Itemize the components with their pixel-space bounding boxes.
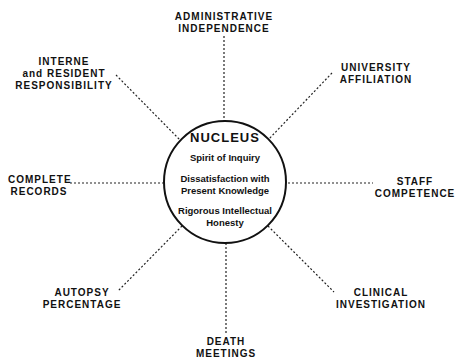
label-line: INTERNE [14, 56, 114, 68]
nucleus-item: Rigorous Intellectual [162, 205, 288, 216]
label-line: INDEPENDENCE [164, 23, 284, 35]
label-complete-records: COMPLETE RECORDS [8, 174, 70, 198]
label-university-affiliation: UNIVERSITY AFFILIATION [326, 62, 426, 86]
label-line: UNIVERSITY [326, 62, 426, 74]
spoke-bottom-left [118, 226, 182, 291]
label-line: INVESTIGATION [326, 299, 436, 311]
label-line: and RESIDENT [14, 68, 114, 80]
label-line: AUTOPSY [42, 287, 122, 299]
label-interne-resident-responsibility: INTERNE and RESIDENT RESPONSIBILITY [14, 56, 114, 92]
label-line: ADMINISTRATIVE [164, 11, 284, 23]
label-line: RECORDS [8, 186, 70, 198]
label-line: STAFF [370, 176, 460, 188]
spoke-bottom-right [268, 226, 334, 292]
label-administrative-independence: ADMINISTRATIVE INDEPENDENCE [164, 11, 284, 35]
label-line: MEETINGS [186, 348, 266, 360]
label-clinical-investigation: CLINICAL INVESTIGATION [326, 287, 436, 311]
label-line: RESPONSIBILITY [14, 80, 114, 92]
label-line: AFFILIATION [326, 74, 426, 86]
label-line: PERCENTAGE [42, 299, 122, 311]
label-line: CLINICAL [326, 287, 436, 299]
nucleus-item: Present Knowledge [162, 185, 288, 196]
label-staff-competence: STAFF COMPETENCE [370, 176, 460, 200]
nucleus-item: Honesty [165, 217, 285, 228]
label-autopsy-percentage: AUTOPSY PERCENTAGE [42, 287, 122, 311]
label-line: COMPETENCE [370, 188, 460, 200]
label-line: COMPLETE [8, 174, 70, 186]
label-death-meetings: DEATH MEETINGS [186, 336, 266, 360]
label-line: DEATH [186, 336, 266, 348]
nucleus-item: Dissatisfaction with [162, 173, 288, 184]
nucleus-title: NUCLEUS [165, 130, 285, 145]
nucleus-item: Spirit of Inquiry [165, 152, 285, 163]
